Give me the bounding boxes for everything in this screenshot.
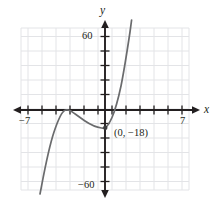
x-axis-label: x [204, 104, 209, 116]
point-annotation-label: (0, −18) [114, 128, 148, 139]
graph-canvas [0, 0, 219, 202]
y-tick-label-minus-60: −60 [78, 180, 94, 191]
x-tick-label-7: 7 [180, 116, 185, 127]
function-curve [40, 20, 132, 194]
x-axis-arrow-right [192, 106, 200, 114]
x-axis [13, 106, 200, 115]
y-axis-label: y [100, 5, 105, 17]
x-tick-label-minus-7: −7 [19, 116, 30, 127]
point-marker-y-intercept [103, 126, 107, 130]
y-tick-label-60: 60 [82, 31, 93, 42]
y-axis-arrow-down [101, 190, 109, 198]
y-axis-arrow-up [101, 20, 109, 28]
x-axis-arrow-left [13, 106, 21, 114]
graph-figure: y x 60 −60 −7 7 (0, −18) [0, 0, 219, 202]
